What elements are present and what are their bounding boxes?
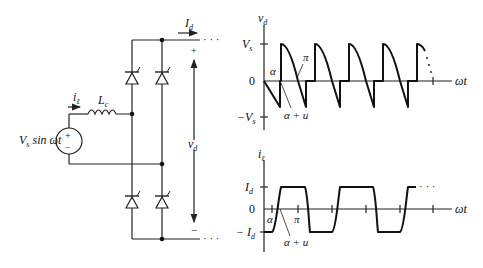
il-waveform-plot: iℓ Id 0 − Id α π α + u ωt · · · xyxy=(236,147,467,252)
alpha-u-label: α + u xyxy=(284,236,309,248)
line-current-label: iℓ xyxy=(73,90,80,106)
alpha-u-label: α + u xyxy=(284,109,309,121)
inductor-icon xyxy=(88,110,132,114)
alpha-label: α xyxy=(270,65,276,77)
neg-vs-tick-label: −Vs xyxy=(237,110,256,126)
svg-text:+: + xyxy=(65,130,71,141)
id-tick-label: Id xyxy=(244,180,254,196)
zero-tick-label: 0 xyxy=(249,74,255,88)
alpha-label: α xyxy=(267,213,273,225)
output-voltage-label: vd xyxy=(188,137,198,153)
output-plus: + xyxy=(191,45,197,56)
omega-t-label: ωt xyxy=(455,74,467,88)
circuit-schematic: · · · · · · xyxy=(19,16,220,244)
top-continuation: · · · xyxy=(203,33,220,45)
pi-label: π xyxy=(303,51,309,63)
inductor-label: Lc xyxy=(97,93,109,109)
node-dot xyxy=(160,237,165,242)
pi-label: π xyxy=(294,213,300,225)
vs-tick-label: Vs xyxy=(242,37,252,53)
vd-axis-label: vd xyxy=(258,11,268,27)
node-dot xyxy=(160,38,165,43)
vd-waveform xyxy=(264,44,425,107)
omega-t-label: ωt xyxy=(455,202,467,216)
bottom-continuation: · · · xyxy=(203,232,220,244)
il-continuation: · · · xyxy=(419,180,436,192)
neg-id-tick-label: − Id xyxy=(236,225,256,241)
zero-tick-label: 0 xyxy=(249,202,255,216)
svg-text:−: − xyxy=(65,142,71,153)
il-axis-label: iℓ xyxy=(258,147,265,163)
converter-diagram: · · · · · · xyxy=(0,0,483,268)
vd-waveform-plot: vd Vs 0 −Vs α π α + u ωt xyxy=(237,11,467,130)
source-label: Vs sin ωt xyxy=(19,133,62,149)
output-minus: − xyxy=(191,224,197,236)
dc-current-label: Id xyxy=(184,16,194,32)
